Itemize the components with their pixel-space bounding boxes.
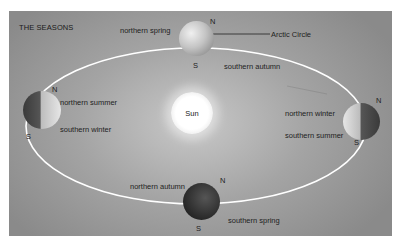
south-pole-label: S xyxy=(354,138,359,147)
north-pole-label: N xyxy=(210,17,215,26)
north-pole-label: N xyxy=(376,96,381,105)
southern-summer-label: southern summer xyxy=(285,131,343,140)
south-pole-label: S xyxy=(26,132,31,141)
earth-autumn-equinox xyxy=(183,183,220,220)
northern-winter-label: northern winter xyxy=(285,109,335,118)
sun: Sun xyxy=(171,92,213,134)
diagram-title: THE SEASONS xyxy=(19,23,73,32)
south-pole-label: S xyxy=(193,61,198,70)
arctic-circle-label: Arctic Circle xyxy=(271,30,311,39)
north-pole-label: N xyxy=(52,85,57,94)
southern-winter-label: southern winter xyxy=(60,125,111,134)
seasons-diagram: THE SEASONS Sun N S northern spring Arct… xyxy=(9,11,392,236)
northern-autumn-label: northern autumn xyxy=(130,182,185,191)
northern-spring-label: northern spring xyxy=(120,26,170,35)
northern-summer-label: northern summer xyxy=(60,98,117,107)
earth-winter-solstice xyxy=(343,103,380,140)
southern-spring-label: southern spring xyxy=(228,216,280,225)
sun-label: Sun xyxy=(185,109,198,118)
earth-spring-equinox xyxy=(179,21,214,56)
south-pole-label: S xyxy=(196,224,201,233)
earth-summer-solstice xyxy=(23,91,61,129)
north-pole-label: N xyxy=(220,176,225,185)
southern-autumn-label: southern autumn xyxy=(224,62,280,71)
